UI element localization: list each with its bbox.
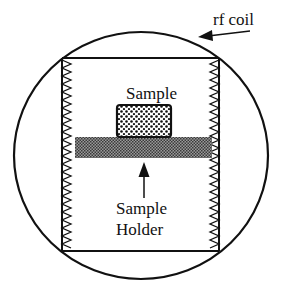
- sample-block: [117, 105, 171, 137]
- rf-coil-label: rf coil: [213, 10, 254, 29]
- rf-coil-arrow-shaft: [208, 31, 250, 36]
- holder-label-line2: Holder: [116, 220, 164, 239]
- sample-label: Sample: [126, 84, 177, 103]
- rf-coil-arrow-head-icon: [198, 30, 213, 41]
- left-zigzag-coil: [62, 60, 71, 248]
- holder-arrow-head-icon: [139, 162, 150, 177]
- sample-holder-bar: [75, 137, 212, 158]
- rf-coil-diagram: Sample Sample Holder rf coil: [0, 0, 286, 292]
- holder-label-line1: Sample: [116, 199, 167, 218]
